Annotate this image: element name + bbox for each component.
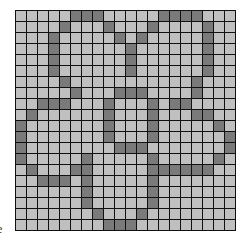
grid-cell-empty[interactable]	[71, 33, 81, 43]
grid-cell-filled[interactable]	[170, 99, 180, 109]
grid-cell-empty[interactable]	[159, 132, 169, 142]
grid-cell-empty[interactable]	[170, 143, 180, 153]
grid-cell-empty[interactable]	[49, 22, 59, 32]
grid-cell-empty[interactable]	[16, 176, 26, 186]
grid-cell-empty[interactable]	[225, 55, 235, 65]
grid-cell-empty[interactable]	[104, 55, 114, 65]
grid-cell-empty[interactable]	[104, 33, 114, 43]
grid-cell-empty[interactable]	[170, 132, 180, 142]
grid-cell-empty[interactable]	[137, 198, 147, 208]
grid-cell-empty[interactable]	[159, 44, 169, 54]
grid-cell-empty[interactable]	[93, 66, 103, 76]
grid-cell-empty[interactable]	[137, 187, 147, 197]
grid-cell-empty[interactable]	[71, 66, 81, 76]
grid-cell-empty[interactable]	[71, 22, 81, 32]
grid-cell-empty[interactable]	[82, 55, 92, 65]
grid-cell-empty[interactable]	[38, 143, 48, 153]
grid-cell-empty[interactable]	[93, 132, 103, 142]
grid-cell-empty[interactable]	[27, 198, 37, 208]
grid-cell-filled[interactable]	[82, 176, 92, 186]
grid-cell-empty[interactable]	[214, 55, 224, 65]
grid-cell-empty[interactable]	[93, 88, 103, 98]
grid-cell-empty[interactable]	[82, 143, 92, 153]
grid-cell-empty[interactable]	[225, 11, 235, 21]
grid-cell-filled[interactable]	[126, 88, 136, 98]
grid-cell-empty[interactable]	[104, 77, 114, 87]
grid-cell-empty[interactable]	[82, 44, 92, 54]
grid-cell-empty[interactable]	[38, 66, 48, 76]
grid-cell-empty[interactable]	[214, 176, 224, 186]
grid-cell-empty[interactable]	[170, 55, 180, 65]
grid-cell-empty[interactable]	[115, 187, 125, 197]
grid-cell-filled[interactable]	[225, 143, 235, 153]
grid-cell-empty[interactable]	[192, 99, 202, 109]
grid-cell-empty[interactable]	[49, 209, 59, 219]
grid-cell-empty[interactable]	[225, 121, 235, 131]
grid-cell-empty[interactable]	[203, 88, 213, 98]
grid-cell-empty[interactable]	[27, 154, 37, 164]
grid-cell-empty[interactable]	[60, 88, 70, 98]
grid-cell-filled[interactable]	[148, 154, 158, 164]
grid-cell-empty[interactable]	[126, 11, 136, 21]
grid-cell-empty[interactable]	[16, 11, 26, 21]
grid-cell-empty[interactable]	[93, 187, 103, 197]
grid-cell-filled[interactable]	[82, 165, 92, 175]
grid-cell-empty[interactable]	[82, 110, 92, 120]
grid-cell-empty[interactable]	[170, 88, 180, 98]
grid-cell-empty[interactable]	[203, 154, 213, 164]
grid-cell-empty[interactable]	[16, 77, 26, 87]
grid-cell-filled[interactable]	[126, 220, 136, 230]
grid-cell-filled[interactable]	[192, 165, 202, 175]
grid-cell-empty[interactable]	[159, 99, 169, 109]
grid-cell-filled[interactable]	[203, 55, 213, 65]
grid-cell-empty[interactable]	[214, 198, 224, 208]
grid-cell-empty[interactable]	[159, 143, 169, 153]
grid-cell-empty[interactable]	[214, 165, 224, 175]
grid-cell-empty[interactable]	[38, 77, 48, 87]
grid-cell-filled[interactable]	[16, 143, 26, 153]
grid-cell-empty[interactable]	[181, 187, 191, 197]
grid-cell-empty[interactable]	[203, 132, 213, 142]
grid-cell-empty[interactable]	[192, 187, 202, 197]
grid-cell-empty[interactable]	[148, 209, 158, 219]
grid-cell-empty[interactable]	[159, 66, 169, 76]
grid-cell-empty[interactable]	[137, 55, 147, 65]
grid-cell-filled[interactable]	[104, 121, 114, 131]
grid-cell-empty[interactable]	[148, 143, 158, 153]
grid-cell-empty[interactable]	[104, 198, 114, 208]
grid-cell-empty[interactable]	[93, 176, 103, 186]
grid-cell-empty[interactable]	[192, 33, 202, 43]
grid-cell-filled[interactable]	[115, 88, 125, 98]
grid-cell-empty[interactable]	[93, 143, 103, 153]
grid-cell-empty[interactable]	[214, 209, 224, 219]
grid-cell-empty[interactable]	[225, 198, 235, 208]
grid-cell-filled[interactable]	[214, 121, 224, 131]
grid-cell-empty[interactable]	[214, 11, 224, 21]
grid-cell-empty[interactable]	[225, 176, 235, 186]
grid-cell-empty[interactable]	[126, 77, 136, 87]
grid-cell-filled[interactable]	[49, 55, 59, 65]
grid-cell-empty[interactable]	[126, 176, 136, 186]
grid-cell-filled[interactable]	[104, 110, 114, 120]
grid-cell-empty[interactable]	[60, 55, 70, 65]
grid-cell-empty[interactable]	[38, 220, 48, 230]
grid-cell-empty[interactable]	[93, 44, 103, 54]
grid-cell-filled[interactable]	[16, 132, 26, 142]
grid-cell-empty[interactable]	[38, 121, 48, 131]
grid-cell-empty[interactable]	[49, 77, 59, 87]
grid-cell-filled[interactable]	[71, 11, 81, 21]
grid-cell-empty[interactable]	[60, 121, 70, 131]
grid-cell-empty[interactable]	[38, 165, 48, 175]
grid-cell-empty[interactable]	[93, 110, 103, 120]
grid-cell-filled[interactable]	[181, 99, 191, 109]
grid-cell-empty[interactable]	[203, 143, 213, 153]
grid-cell-empty[interactable]	[104, 143, 114, 153]
grid-cell-empty[interactable]	[137, 176, 147, 186]
grid-cell-empty[interactable]	[126, 209, 136, 219]
grid-cell-empty[interactable]	[170, 77, 180, 87]
grid-cell-empty[interactable]	[71, 209, 81, 219]
grid-cell-empty[interactable]	[49, 110, 59, 120]
grid-cell-empty[interactable]	[225, 88, 235, 98]
grid-cell-empty[interactable]	[159, 88, 169, 98]
grid-cell-empty[interactable]	[60, 110, 70, 120]
